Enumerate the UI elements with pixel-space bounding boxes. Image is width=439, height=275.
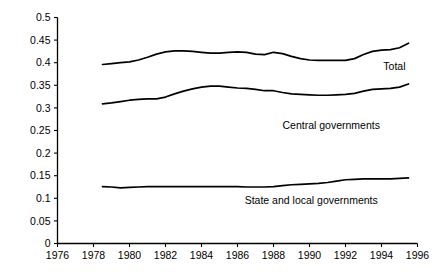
- y-axis-tick-group: 00.050.10.150.20.250.30.350.40.450.5: [30, 11, 57, 249]
- y-tick-label: 0.2: [36, 147, 51, 159]
- series-line-total: [103, 43, 409, 64]
- x-tick-label: 1978: [82, 249, 106, 261]
- series-label-central-governments: Central governments: [283, 119, 380, 131]
- line-chart: 00.050.10.150.20.250.30.350.40.450.5 197…: [0, 0, 439, 275]
- y-tick-label: 0.35: [30, 79, 51, 91]
- series-line-state-and-local-governments: [103, 178, 409, 188]
- y-tick-label: 0.1: [36, 192, 51, 204]
- x-tick-label: 1990: [298, 249, 322, 261]
- x-tick-label: 1994: [370, 249, 394, 261]
- y-tick-label: 0.15: [30, 169, 51, 181]
- chart-container: 00.050.10.150.20.250.30.350.40.450.5 197…: [0, 0, 439, 275]
- y-tick-label: 0.45: [30, 34, 51, 46]
- y-tick-label: 0: [45, 237, 51, 249]
- y-tick-label: 0.3: [36, 102, 51, 114]
- series-line-central-governments: [103, 84, 409, 104]
- x-tick-label: 1988: [262, 249, 286, 261]
- series-label-state-and-local-governments: State and local governments: [245, 194, 378, 206]
- x-tick-label: 1980: [118, 249, 142, 261]
- series-labels-group: TotalCentral governmentsState and local …: [245, 60, 406, 205]
- y-tick-label: 0.4: [36, 56, 51, 68]
- x-tick-label: 1976: [46, 249, 70, 261]
- x-tick-label: 1984: [190, 249, 214, 261]
- y-tick-label: 0.25: [30, 124, 51, 136]
- x-tick-label: 1982: [154, 249, 178, 261]
- series-label-total: Total: [383, 60, 405, 72]
- y-tick-label: 0.5: [36, 11, 51, 23]
- x-tick-label: 1986: [226, 249, 250, 261]
- x-tick-label: 1996: [406, 249, 430, 261]
- series-group: [103, 43, 409, 188]
- x-tick-label: 1992: [334, 249, 358, 261]
- y-tick-label: 0.05: [30, 215, 51, 227]
- x-axis-tick-group: 1976197819801982198419861988199019921994…: [46, 244, 430, 262]
